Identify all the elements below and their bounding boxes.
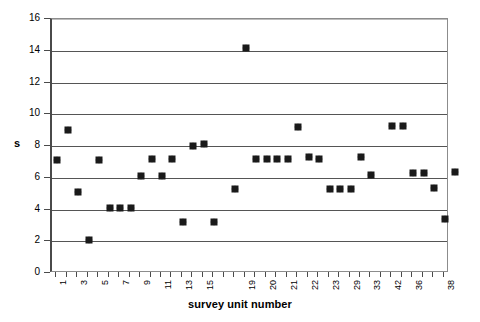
x-tick-mark [191, 272, 192, 277]
data-point [106, 204, 113, 211]
x-tick-mark [338, 272, 339, 277]
scatter-chart-figure: s 0246810121416 135791113151920212223293… [0, 0, 480, 322]
data-point [211, 219, 218, 226]
y-tick-label: 8 [34, 140, 40, 150]
data-point [253, 155, 260, 162]
x-tick-mark [139, 272, 140, 277]
data-point [284, 156, 291, 163]
x-tick-label: 3 [80, 280, 89, 285]
data-point [452, 169, 459, 176]
y-tick-label: 14 [29, 45, 40, 55]
x-tick-mark [390, 272, 391, 277]
data-point [242, 44, 249, 51]
data-point [148, 155, 155, 162]
x-tick-mark [181, 272, 182, 277]
x-tick-mark [202, 272, 203, 277]
plot-area [50, 18, 448, 272]
x-tick-mark [233, 272, 234, 277]
x-tick-mark [108, 272, 109, 277]
x-tick-mark [296, 272, 297, 277]
gridline [52, 241, 447, 242]
gridline [52, 83, 447, 84]
data-point [158, 173, 165, 180]
x-tick-label: 9 [143, 280, 152, 285]
x-tick-label: 7 [122, 280, 131, 285]
y-tick-label: 10 [29, 108, 40, 118]
x-tick-mark [265, 272, 266, 277]
data-point [190, 142, 197, 149]
x-tick-mark [359, 272, 360, 277]
data-point [54, 157, 61, 164]
x-axis-title: survey unit number [0, 298, 480, 310]
x-tick-label: 38 [447, 280, 456, 290]
data-point [431, 185, 438, 192]
x-tick-mark [97, 272, 98, 277]
gridline [52, 178, 447, 179]
x-tick-mark [254, 272, 255, 277]
x-tick-mark [317, 272, 318, 277]
gridline [52, 114, 447, 115]
y-tick-label: 16 [29, 13, 40, 23]
x-tick-label: 29 [353, 280, 362, 290]
data-point [316, 155, 323, 162]
data-point [169, 155, 176, 162]
x-tick-label: 11 [164, 280, 173, 289]
x-tick-label: 15 [206, 280, 215, 290]
x-tick-mark [66, 272, 67, 277]
x-tick-label: 22 [311, 280, 320, 290]
x-tick-mark [275, 272, 276, 277]
gridline [52, 19, 447, 20]
data-point [85, 237, 92, 244]
x-tick-label: 13 [185, 280, 194, 290]
x-tick-mark [118, 272, 119, 277]
gridline [52, 146, 447, 147]
data-point [75, 188, 82, 195]
x-tick-label: 20 [269, 280, 278, 290]
data-point [295, 123, 302, 130]
x-tick-label: 42 [394, 280, 403, 290]
x-tick-mark [160, 272, 161, 277]
x-tick-mark [212, 272, 213, 277]
x-tick-mark [129, 272, 130, 277]
x-tick-mark [87, 272, 88, 277]
data-point [410, 169, 417, 176]
x-tick-mark [76, 272, 77, 277]
data-point [399, 123, 406, 130]
x-tick-mark [411, 272, 412, 277]
x-tick-mark [286, 272, 287, 277]
data-point [200, 140, 207, 147]
x-tick-mark [55, 272, 56, 277]
y-tick-label: 6 [34, 172, 40, 182]
data-point [336, 185, 343, 192]
data-point [96, 157, 103, 164]
x-tick-mark [432, 272, 433, 277]
data-point [232, 185, 239, 192]
data-point [347, 185, 354, 192]
x-tick-mark [170, 272, 171, 277]
data-point [389, 123, 396, 130]
data-point [64, 127, 71, 134]
x-tick-label: 36 [415, 280, 424, 290]
data-point [117, 204, 124, 211]
data-point [179, 219, 186, 226]
x-tick-mark [223, 272, 224, 277]
data-point [137, 173, 144, 180]
x-tick-mark [369, 272, 370, 277]
x-tick-label: 21 [290, 280, 299, 290]
x-tick-mark [328, 272, 329, 277]
x-tick-mark [443, 272, 444, 277]
x-tick-mark [401, 272, 402, 277]
x-tick-label: 23 [332, 280, 341, 290]
y-tick-label: 4 [34, 204, 40, 214]
x-tick-label: 1 [59, 280, 68, 285]
data-point [274, 155, 281, 162]
data-point [420, 169, 427, 176]
y-tick-label: 12 [29, 77, 40, 87]
x-tick-mark [307, 272, 308, 277]
x-tick-mark [150, 272, 151, 277]
x-tick-mark [380, 272, 381, 277]
data-point [127, 204, 134, 211]
x-tick-label: 5 [101, 280, 110, 285]
x-tick-mark [244, 272, 245, 277]
data-point [305, 154, 312, 161]
